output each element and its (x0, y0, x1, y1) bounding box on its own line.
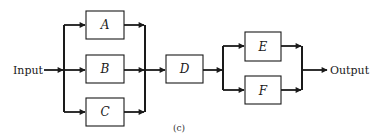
block-e-label: E (258, 40, 268, 54)
block-f-label: F (258, 84, 268, 98)
block-b: B (86, 55, 124, 83)
block-c: C (86, 98, 124, 126)
block-a: A (86, 11, 124, 39)
block-d-label: D (179, 62, 190, 76)
block-f: F (245, 76, 281, 104)
block-d: D (166, 55, 203, 83)
block-e: E (245, 32, 281, 61)
block-c-label: C (100, 105, 109, 119)
block-a-label: A (100, 18, 110, 32)
figure-caption: (c) (173, 123, 185, 133)
block-diagram: Input A B C D E (0, 0, 374, 136)
output-label: Output (330, 64, 370, 77)
block-b-label: B (100, 62, 110, 76)
input-label: Input (13, 64, 44, 77)
